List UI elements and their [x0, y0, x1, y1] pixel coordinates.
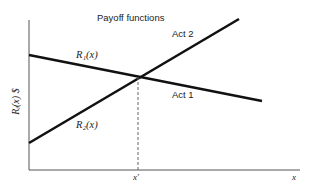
r1-label: R₁(x) — [76, 49, 98, 60]
x-axis-label: x — [292, 172, 296, 182]
r2-line-act2 — [29, 19, 239, 143]
payoff-chart — [0, 0, 313, 187]
chart-title: Payoff functions — [97, 12, 164, 23]
r2-label: R₂(x) — [76, 119, 98, 130]
act1-label: Act 1 — [172, 89, 194, 100]
x-prime-tick-label: x′ — [133, 172, 139, 182]
r1-line-act1 — [29, 55, 262, 101]
act2-label: Act 2 — [172, 28, 194, 39]
y-axis-label: Rᵢ(x) $ — [10, 88, 21, 114]
